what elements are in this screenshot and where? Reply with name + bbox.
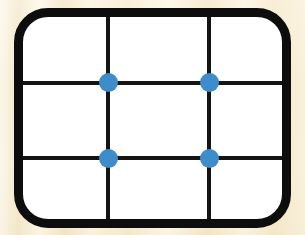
grid-line-vertical-v1 (106, 17, 110, 219)
grid-line-horizontal-h1 (23, 81, 282, 85)
interior-grid (23, 17, 282, 219)
grid-line-vertical-v2 (207, 17, 211, 219)
rounded-rectangle-frame (14, 8, 291, 228)
node-top-right[interactable] (200, 73, 219, 92)
node-top-left[interactable] (99, 73, 118, 92)
node-bottom-right[interactable] (200, 149, 219, 168)
diagram-canvas (0, 0, 305, 235)
grid-line-horizontal-h2 (23, 156, 282, 160)
node-bottom-left[interactable] (99, 149, 118, 168)
